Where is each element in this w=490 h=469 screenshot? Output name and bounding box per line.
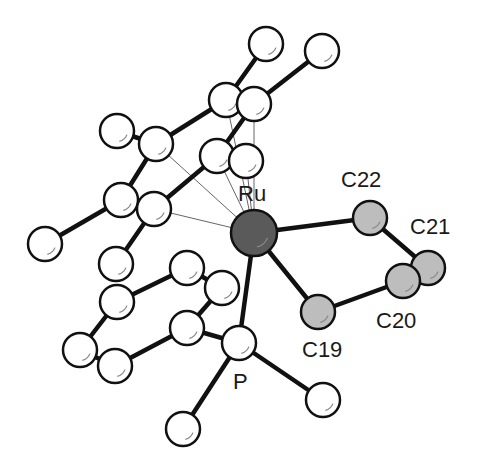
label-c21: C21: [410, 216, 450, 238]
atom-cp7: [137, 192, 171, 226]
atom-c22: [353, 201, 387, 235]
atom-ph3: [100, 285, 134, 319]
label-c22: C22: [341, 169, 381, 191]
atom-cp6: [104, 183, 138, 217]
atom-me5: [99, 247, 133, 281]
atom-me3: [100, 114, 134, 148]
atom-cp5: [229, 144, 263, 178]
label-c20: C20: [376, 310, 416, 332]
label-c19: C19: [302, 339, 342, 361]
atom-ph6: [98, 349, 132, 383]
atom-pme2: [306, 383, 340, 417]
atom-p: [222, 326, 256, 360]
label-p: P: [233, 371, 248, 393]
atom-me4: [28, 227, 62, 261]
atom-ph1: [170, 251, 204, 285]
label-ru: Ru: [238, 183, 266, 205]
atom-cp3: [139, 127, 173, 161]
atom-ph4: [170, 311, 204, 345]
atom-c19: [301, 295, 335, 329]
atom-me2: [305, 34, 339, 68]
atom-cp2: [237, 87, 271, 121]
atom-me1: [249, 27, 283, 61]
atom-pme1: [166, 412, 200, 446]
atom-ru: [231, 210, 277, 256]
atom-ph2: [205, 271, 239, 305]
atom-ph5: [63, 333, 97, 367]
atom-c20: [386, 264, 420, 298]
